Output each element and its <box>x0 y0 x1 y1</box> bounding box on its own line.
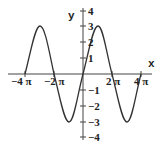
sine-chart: y x 4 3 2 1 −1 −2 −3 −4 −4 π −2 π 2 π 4 … <box>0 0 157 147</box>
x-tick-label: 2 π <box>106 75 120 87</box>
x-tick-label: −2 π <box>44 75 65 87</box>
x-tick-label: 4 π <box>134 75 148 87</box>
y-tick-label: 3 <box>88 20 94 32</box>
x-tick-label: −4 π <box>11 75 32 87</box>
y-tick-label: −4 <box>88 131 100 143</box>
y-tick-label: 4 <box>88 5 94 17</box>
y-axis-label: y <box>68 10 75 22</box>
y-tick-label: 1 <box>88 52 94 64</box>
y-tick-label: −3 <box>88 116 100 128</box>
y-tick-label: −2 <box>88 100 100 112</box>
y-tick-label: 2 <box>88 36 94 48</box>
x-axis-label: x <box>148 58 155 70</box>
y-tick-label: −1 <box>88 84 100 96</box>
